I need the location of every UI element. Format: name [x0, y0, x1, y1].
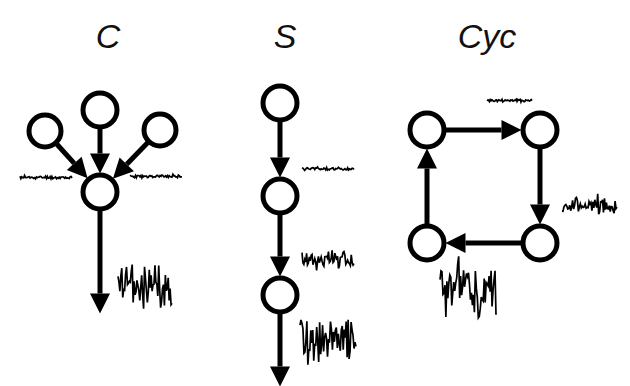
panel-label-cyclic: Cyc	[458, 17, 517, 55]
node-3[interactable]	[263, 278, 297, 312]
node-bottom[interactable]	[83, 175, 117, 209]
node-top-center[interactable]	[83, 93, 117, 127]
panel-label-serial-chain: S	[274, 17, 297, 55]
node-2[interactable]	[263, 179, 297, 213]
node-bottom-right[interactable]	[523, 226, 557, 260]
node-bottom-left[interactable]	[410, 226, 444, 260]
causal-motif-figure: CSCyc	[0, 0, 630, 386]
node-right[interactable]	[144, 114, 176, 146]
node-top-right[interactable]	[523, 113, 557, 147]
node-top-left[interactable]	[410, 113, 444, 147]
panel-label-common-effect: C	[96, 17, 121, 55]
node-1[interactable]	[263, 86, 297, 120]
figure-canvas: CSCyc	[0, 0, 630, 386]
node-left[interactable]	[29, 115, 61, 147]
